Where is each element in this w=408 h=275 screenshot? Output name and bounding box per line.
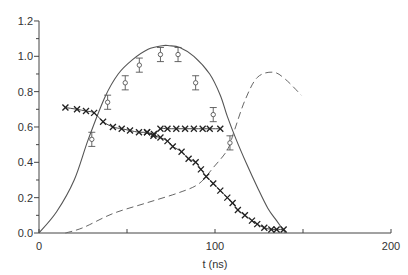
data-point-circle — [157, 47, 164, 61]
circle-marker — [228, 141, 232, 145]
cross-marker — [224, 195, 230, 201]
cross-marker — [164, 138, 170, 144]
x-tick-100: 100 — [206, 240, 224, 252]
cross-marker — [210, 181, 216, 187]
y-tick-0.4: 0.4 — [18, 156, 33, 168]
circle-marker — [90, 137, 94, 141]
circle-marker — [211, 112, 215, 116]
circle-marker — [176, 52, 180, 56]
cross-marker — [249, 218, 255, 224]
y-tick-1.2: 1.2 — [18, 15, 33, 27]
circle-marker — [123, 81, 127, 85]
circle-marker — [193, 81, 197, 85]
cross-marker — [217, 188, 223, 194]
cross-marker — [110, 124, 116, 130]
cross-marker — [100, 119, 106, 125]
cross-marker — [186, 156, 192, 162]
y-tick-0.0: 0.0 — [18, 227, 33, 239]
circle-marker — [105, 100, 109, 104]
data-point-circle — [88, 132, 95, 146]
x-tick-0: 0 — [36, 240, 42, 252]
y-tick-0.8: 0.8 — [18, 86, 33, 98]
cross-marker — [254, 221, 260, 227]
cross-marker — [198, 166, 204, 172]
cross-marker — [242, 212, 248, 218]
cross-marker — [193, 159, 199, 165]
data-point-circle — [122, 76, 129, 90]
cross-points-upper-line — [65, 108, 220, 135]
y-tick-1.0: 1.0 — [18, 50, 33, 62]
cross-marker — [203, 173, 209, 179]
cross-marker — [91, 110, 97, 116]
chart: t (ns) 0 100 200 0.0 0.2 0.4 0.6 0.8 1.0… — [0, 0, 408, 275]
x-axis-label: t (ns) — [202, 258, 227, 270]
data-point-circle — [136, 58, 143, 72]
y-tick-0.2: 0.2 — [18, 192, 33, 204]
cross-marker — [235, 207, 241, 213]
cross-marker — [170, 143, 176, 149]
circle-marker — [137, 63, 141, 67]
circle-marker — [158, 52, 162, 56]
y-tick-0.6: 0.6 — [18, 121, 33, 133]
data-point-circle — [192, 76, 199, 90]
cross-marker — [261, 225, 267, 231]
data-point-circle — [175, 47, 182, 61]
axis-labels: t (ns) 0 100 200 0.0 0.2 0.4 0.6 0.8 1.0… — [18, 15, 400, 270]
data-point-circle — [210, 108, 217, 122]
plot-series — [39, 45, 301, 233]
x-tick-200: 200 — [382, 240, 400, 252]
axes — [34, 21, 391, 233]
cross-marker — [157, 135, 163, 141]
cross-marker — [179, 149, 185, 155]
cross-marker — [230, 200, 236, 206]
